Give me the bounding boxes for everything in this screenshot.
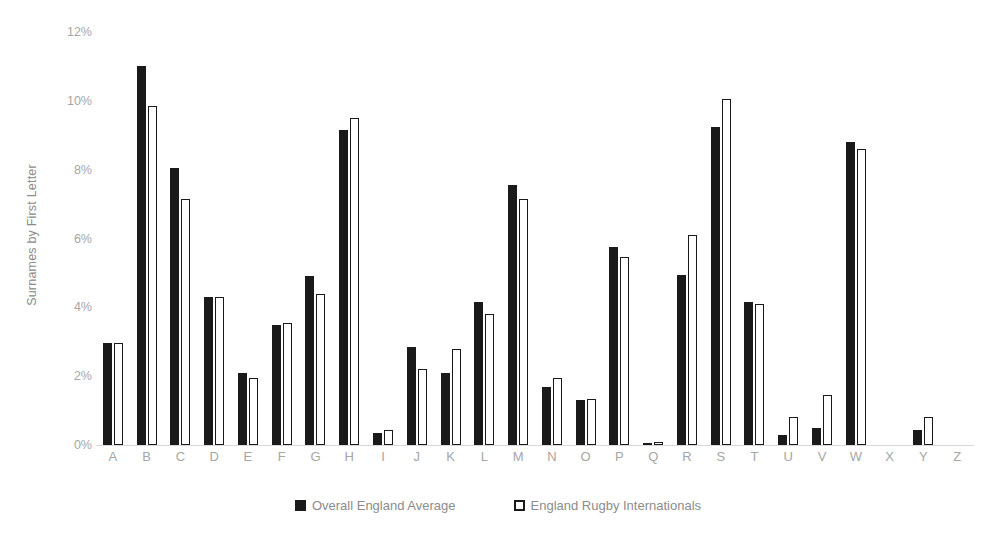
- y-axis-tick: 10%: [67, 94, 92, 108]
- bar: [542, 387, 551, 446]
- bar: [384, 430, 393, 445]
- bar: [305, 276, 314, 445]
- bar: [857, 149, 866, 445]
- bar: [373, 433, 382, 445]
- bar-group: [940, 32, 974, 445]
- y-axis-tick-labels: 0%2%4%6%8%10%12%: [52, 32, 92, 445]
- bar: [789, 417, 798, 445]
- bar: [587, 399, 596, 445]
- x-axis-tick: L: [481, 449, 488, 464]
- bar: [643, 443, 652, 445]
- bar: [350, 118, 359, 445]
- x-axis-tick: A: [109, 449, 118, 464]
- bar: [407, 347, 416, 445]
- bar: [238, 373, 247, 445]
- bar: [485, 314, 494, 445]
- x-axis-tick: V: [818, 449, 827, 464]
- x-axis-tick: D: [209, 449, 218, 464]
- bar-group: [670, 32, 704, 445]
- bar-group: [569, 32, 603, 445]
- legend-label: Overall England Average: [312, 498, 456, 513]
- bar-group: [805, 32, 839, 445]
- bar-chart: Surnames by First Letter 0%2%4%6%8%10%12…: [0, 0, 996, 543]
- x-axis-tick: Q: [648, 449, 658, 464]
- x-axis-tick: N: [547, 449, 556, 464]
- bar-group: [265, 32, 299, 445]
- bar: [722, 99, 731, 445]
- plot-area: [96, 32, 974, 445]
- x-axis-tick: J: [414, 449, 421, 464]
- bar: [418, 369, 427, 445]
- legend-swatch-icon: [514, 500, 525, 511]
- bar: [204, 297, 213, 445]
- bars-layer: [96, 32, 974, 445]
- y-axis-tick: 12%: [67, 25, 92, 39]
- bar: [576, 400, 585, 445]
- bar: [441, 373, 450, 445]
- bar: [148, 106, 157, 445]
- bar-group: [839, 32, 873, 445]
- x-axis-tick: F: [278, 449, 286, 464]
- bar: [913, 430, 922, 445]
- bar-group: [636, 32, 670, 445]
- bar: [654, 442, 663, 445]
- x-axis-tick: C: [176, 449, 185, 464]
- bar: [114, 343, 123, 445]
- x-axis-tick: E: [244, 449, 253, 464]
- bar: [711, 127, 720, 445]
- y-axis-tick: 2%: [74, 369, 92, 383]
- x-axis-tick: M: [513, 449, 524, 464]
- bar-group: [434, 32, 468, 445]
- x-axis-tick: O: [581, 449, 591, 464]
- bar: [924, 417, 933, 445]
- bar-group: [535, 32, 569, 445]
- bar-group: [164, 32, 198, 445]
- y-axis-tick: 8%: [74, 163, 92, 177]
- bar-group: [501, 32, 535, 445]
- x-axis-tick: K: [446, 449, 455, 464]
- x-axis-tick: P: [615, 449, 624, 464]
- x-axis-tick: B: [142, 449, 151, 464]
- bar-group: [738, 32, 772, 445]
- bar: [283, 323, 292, 445]
- bar: [778, 435, 787, 445]
- bar: [519, 199, 528, 445]
- y-axis-title-label: Surnames by First Letter: [25, 164, 39, 306]
- legend-swatch-icon: [295, 500, 306, 511]
- x-axis-tick: G: [310, 449, 320, 464]
- bar: [846, 142, 855, 445]
- x-axis-tick: Z: [953, 449, 961, 464]
- bar-group: [873, 32, 907, 445]
- legend-item[interactable]: England Rugby Internationals: [514, 498, 702, 513]
- bar: [215, 297, 224, 445]
- y-axis-tick: 6%: [74, 232, 92, 246]
- bar-group: [299, 32, 333, 445]
- legend-label: England Rugby Internationals: [531, 498, 702, 513]
- bar-group: [197, 32, 231, 445]
- bar-group: [771, 32, 805, 445]
- chart-legend: Overall England AverageEngland Rugby Int…: [0, 498, 996, 513]
- x-axis-tick: R: [682, 449, 691, 464]
- bar: [508, 185, 517, 445]
- bar-group: [467, 32, 501, 445]
- bar: [339, 130, 348, 445]
- x-axis-line: [96, 445, 974, 446]
- bar: [677, 275, 686, 445]
- y-axis-tick: 0%: [74, 438, 92, 452]
- y-axis-tick: 4%: [74, 300, 92, 314]
- x-axis-tick: I: [381, 449, 385, 464]
- bar: [744, 302, 753, 445]
- bar-group: [400, 32, 434, 445]
- bar: [103, 343, 112, 445]
- x-axis-tick: W: [850, 449, 862, 464]
- bar-group: [906, 32, 940, 445]
- x-axis-tick: X: [885, 449, 894, 464]
- legend-item[interactable]: Overall England Average: [295, 498, 456, 513]
- bar-group: [130, 32, 164, 445]
- bar-group: [332, 32, 366, 445]
- bar-group: [704, 32, 738, 445]
- bar: [316, 294, 325, 445]
- bar: [620, 257, 629, 445]
- x-axis-tick: H: [345, 449, 354, 464]
- bar: [755, 304, 764, 445]
